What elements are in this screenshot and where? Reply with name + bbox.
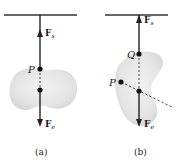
point-q	[136, 51, 141, 56]
caption-b: (b)	[134, 147, 147, 157]
label-fe: Fe	[45, 119, 55, 130]
diagram-canvas: P Fs Fe (a) Q P Fs Fe (b)	[0, 0, 176, 161]
label-p: P	[108, 77, 116, 88]
label-q: Q	[127, 49, 135, 60]
label-fs: Fs	[144, 15, 153, 26]
point-p	[118, 79, 123, 84]
rigid-body	[9, 68, 77, 110]
caption-a: (a)	[35, 147, 47, 157]
label-fs: Fs	[45, 28, 54, 39]
label-p: P	[27, 64, 35, 75]
arrow-up-icon	[136, 15, 142, 23]
panel-b: Q P Fs Fe (b)	[105, 15, 172, 157]
point-p	[37, 66, 42, 71]
arrow-up-icon	[37, 29, 43, 37]
center-of-mass	[136, 88, 141, 93]
arrow-down-icon	[37, 119, 43, 127]
panel-a: P Fs Fe (a)	[4, 15, 77, 157]
center-of-mass	[37, 87, 42, 92]
